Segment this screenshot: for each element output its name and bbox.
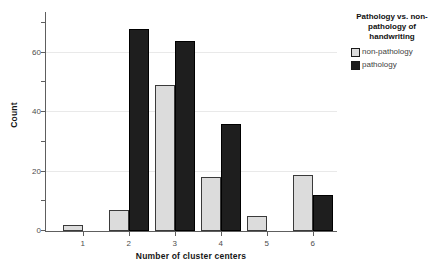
y-minor-tick-30 (41, 141, 46, 142)
legend-items: non-pathologypathology (346, 47, 438, 70)
bar-non-pathology-2 (109, 210, 129, 231)
bar-pathology-4 (221, 124, 241, 231)
y-minor-tick-10 (41, 200, 46, 201)
x-tick-label-1: 1 (68, 239, 98, 248)
legend-swatch-pathology (351, 61, 360, 70)
legend-title: Pathology vs. non- pathology of handwrit… (346, 12, 438, 42)
legend: Pathology vs. non- pathology of handwrit… (346, 12, 438, 73)
y-minor-tick-70 (41, 22, 46, 23)
legend-swatch-non-pathology (351, 48, 360, 57)
x-tick-label-4: 4 (206, 239, 236, 248)
y-tick-label-60: 60 (17, 48, 41, 57)
legend-label-pathology: pathology (362, 60, 397, 70)
y-tick-label-20: 20 (17, 167, 41, 176)
x-tick-1 (83, 232, 84, 236)
y-tick-40 (41, 111, 46, 112)
bar-chart: 0204060123456 Count Number of cluster ce… (0, 0, 441, 271)
bar-pathology-2 (129, 29, 149, 231)
x-axis-title: Number of cluster centers (45, 251, 337, 261)
x-tick-5 (267, 232, 268, 236)
legend-item-pathology: pathology (351, 60, 438, 70)
bar-non-pathology-5 (247, 216, 267, 231)
x-tick-label-6: 6 (298, 239, 328, 248)
bar-non-pathology-3 (155, 85, 175, 231)
y-axis-title: Count (9, 84, 19, 146)
y-tick-label-0: 0 (17, 226, 41, 235)
x-tick-3 (175, 232, 176, 236)
legend-item-non-pathology: non-pathology (351, 47, 438, 57)
y-tick-label-40: 40 (17, 107, 41, 116)
bar-non-pathology-4 (201, 177, 221, 231)
x-tick-2 (129, 232, 130, 236)
x-tick-6 (313, 232, 314, 236)
legend-label-non-pathology: non-pathology (362, 47, 413, 57)
x-tick-4 (221, 232, 222, 236)
bar-non-pathology-6 (293, 175, 313, 231)
y-minor-tick-50 (41, 81, 46, 82)
y-tick-60 (41, 52, 46, 53)
bar-pathology-6 (313, 195, 333, 231)
y-tick-0 (41, 230, 46, 231)
bar-non-pathology-1 (63, 225, 83, 231)
x-tick-label-5: 5 (252, 239, 282, 248)
y-tick-20 (41, 171, 46, 172)
x-tick-label-3: 3 (160, 239, 190, 248)
plot-area: 0204060123456 (45, 12, 337, 232)
bar-pathology-3 (175, 41, 195, 231)
x-tick-label-2: 2 (114, 239, 144, 248)
